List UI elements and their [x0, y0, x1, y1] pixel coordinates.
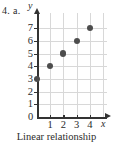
x-axis-tick-label: 4: [87, 120, 92, 131]
y-axis-tick-label: 6: [28, 36, 33, 47]
gridline-vertical: [77, 13, 78, 118]
data-point: [60, 50, 66, 56]
x-axis-arrow-icon: [105, 113, 111, 119]
data-point: [47, 63, 53, 69]
gridline-horizontal: [37, 104, 107, 105]
x-axis-tick-label: 2: [61, 120, 66, 131]
x-axis-tick-label: 3: [74, 120, 79, 131]
x-axis-tick: [50, 115, 51, 119]
x-axis-label: x: [101, 119, 105, 129]
scatter-plot-figure: 4. a. 1234567 1234 0 y x Linear relation…: [0, 0, 113, 144]
y-axis-tick: [34, 28, 38, 29]
y-axis-tick-label: 2: [28, 86, 33, 97]
y-axis-tick: [34, 41, 38, 42]
y-axis-label: y: [28, 1, 32, 11]
y-axis-tick: [34, 66, 38, 67]
figure-caption: Linear relationship: [0, 131, 113, 143]
origin-label: 0: [28, 112, 33, 123]
problem-number-label: 4. a.: [2, 5, 20, 17]
x-axis-tick: [63, 115, 64, 119]
data-point: [74, 38, 80, 44]
data-point: [87, 25, 93, 31]
gridline-horizontal: [37, 54, 107, 55]
gridline-vertical: [63, 13, 64, 118]
x-axis-tick: [90, 115, 91, 119]
gridline-horizontal: [37, 41, 107, 42]
data-point: [34, 76, 40, 82]
y-axis-tick-label: 4: [28, 61, 33, 72]
y-axis-tick-label: 5: [28, 48, 33, 59]
y-axis-arrow-icon: [34, 8, 40, 14]
y-axis-tick: [34, 54, 38, 55]
plot-area: 1234567 1234 0 y x: [37, 13, 107, 118]
y-axis-tick-label: 3: [28, 74, 33, 85]
gridline-vertical: [103, 13, 104, 118]
y-axis-tick: [34, 104, 38, 105]
gridline-horizontal: [37, 92, 107, 93]
gridline-horizontal: [37, 28, 107, 29]
gridline-horizontal: [37, 79, 107, 80]
x-axis-tick-label: 1: [48, 120, 53, 131]
y-axis-tick-label: 7: [28, 23, 33, 34]
y-axis-tick: [34, 92, 38, 93]
x-axis-tick: [77, 115, 78, 119]
y-axis-tick-label: 1: [28, 99, 33, 110]
